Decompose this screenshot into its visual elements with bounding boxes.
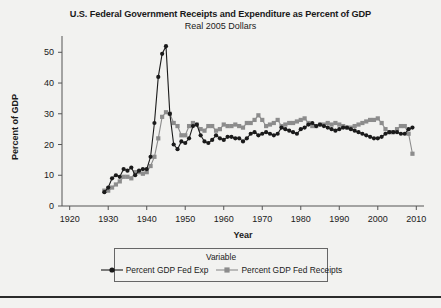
y-tick-label: 10 <box>44 170 54 180</box>
legend-entry-2[interactable]: Percent GDP Fed Receipts <box>215 265 342 275</box>
legend: Variable Percent GDP Fed ExpPercent GDP … <box>114 248 328 282</box>
legend-entries: Percent GDP Fed ExpPercent GDP Fed Recei… <box>115 265 327 275</box>
legend-title: Variable <box>115 249 327 264</box>
series-1 <box>102 44 414 194</box>
x-tick-label: 1950 <box>175 214 195 224</box>
circle-marker-icon <box>100 265 124 275</box>
series-group <box>102 44 414 194</box>
y-tick-label: 0 <box>49 201 54 211</box>
x-tick-label: 1960 <box>214 214 234 224</box>
x-axis-title: Year <box>233 230 253 240</box>
legend-entry-1[interactable]: Percent GDP Fed Exp <box>100 265 209 275</box>
x-tick-label: 1970 <box>252 214 272 224</box>
x-tick-label: 1980 <box>291 214 311 224</box>
y-tick-label: 20 <box>44 140 54 150</box>
axes-group: 1920193019401950196019701980199020002010… <box>44 36 426 224</box>
x-tick-label: 1940 <box>137 214 157 224</box>
bottom-divider <box>0 296 441 298</box>
x-tick-label: 1920 <box>60 214 80 224</box>
legend-label: Percent GDP Fed Receipts <box>241 265 342 275</box>
legend-label: Percent GDP Fed Exp <box>126 265 209 275</box>
x-tick-label: 1990 <box>329 214 349 224</box>
y-axis-title: Percent of GDP <box>10 94 20 160</box>
y-tick-label: 30 <box>44 109 54 119</box>
y-tick-label: 50 <box>44 47 54 57</box>
y-tick-label: 40 <box>44 78 54 88</box>
series-2 <box>102 110 414 193</box>
x-tick-label: 2000 <box>368 214 388 224</box>
x-tick-label: 2010 <box>406 214 426 224</box>
chart-figure: U.S. Federal Government Receipts and Exp… <box>0 0 441 308</box>
x-tick-label: 1930 <box>98 214 118 224</box>
square-marker-icon <box>215 265 239 275</box>
